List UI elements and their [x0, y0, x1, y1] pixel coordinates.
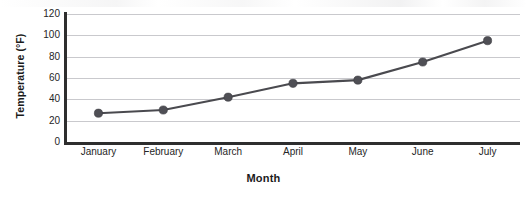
temperature-data-points: [94, 37, 491, 118]
data-point: [224, 93, 232, 101]
data-point: [289, 79, 297, 87]
x-tick-label: January: [81, 146, 117, 157]
data-point: [483, 37, 491, 45]
x-tick-label: February: [143, 146, 183, 157]
data-point: [354, 76, 362, 84]
data-point: [159, 106, 167, 114]
x-tick-label: May: [348, 146, 367, 157]
x-axis-title: Month: [0, 172, 527, 184]
data-point: [419, 58, 427, 66]
x-tick-label: June: [412, 146, 434, 157]
x-tick-label: March: [214, 146, 242, 157]
temperature-series-svg: [0, 0, 527, 198]
x-tick-label: July: [479, 146, 497, 157]
x-tick-label: April: [283, 146, 303, 157]
temperature-series-line: [98, 41, 487, 114]
data-point: [94, 109, 102, 117]
line-chart-figure: Temperature (°F) 020406080100120 January…: [0, 0, 527, 198]
